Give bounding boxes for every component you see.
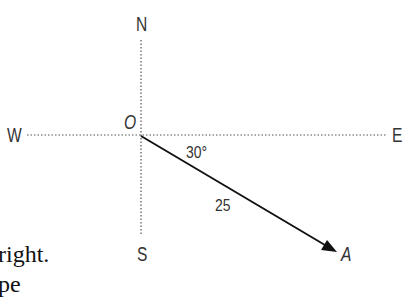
arrowhead-icon: [321, 240, 337, 252]
magnitude-label: 25: [215, 197, 231, 214]
west-label: W: [7, 125, 22, 145]
point-a-label: A: [341, 244, 351, 264]
south-label: S: [137, 244, 147, 264]
body-text-line-1: right.: [0, 242, 49, 266]
body-text-line-2: pe: [0, 272, 21, 296]
origin-label: O: [124, 112, 136, 132]
vector-oa: [141, 136, 330, 248]
north-label: N: [136, 14, 147, 34]
east-label: E: [392, 125, 402, 145]
angle-label: 30°: [186, 144, 207, 161]
